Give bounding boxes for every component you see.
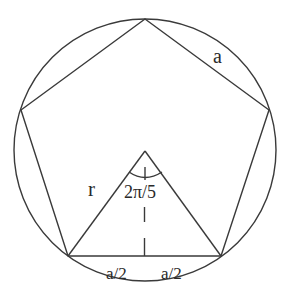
radius-left (68, 151, 145, 256)
angle-label: 2π/5 (124, 182, 156, 202)
side-label: a (213, 45, 222, 67)
half-side-left-label: a/2 (106, 264, 127, 283)
radius-label: r (88, 177, 95, 201)
radius-right (145, 151, 221, 256)
half-side-right-label: a/2 (161, 264, 182, 283)
pentagon-diagram: a r 2π/5 a/2 a/2 (0, 0, 288, 296)
